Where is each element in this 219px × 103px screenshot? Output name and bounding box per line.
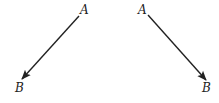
right-arrow-line — [148, 15, 206, 80]
left-vector: A B — [14, 3, 89, 95]
left-point-a-label: A — [79, 3, 89, 17]
right-point-a-label: A — [137, 3, 147, 17]
right-vector: A B — [137, 3, 211, 95]
vector-diagram: A B A B — [0, 0, 219, 103]
left-point-b-label: B — [14, 81, 24, 95]
left-arrow-line — [22, 16, 79, 79]
right-point-b-label: B — [201, 81, 211, 95]
